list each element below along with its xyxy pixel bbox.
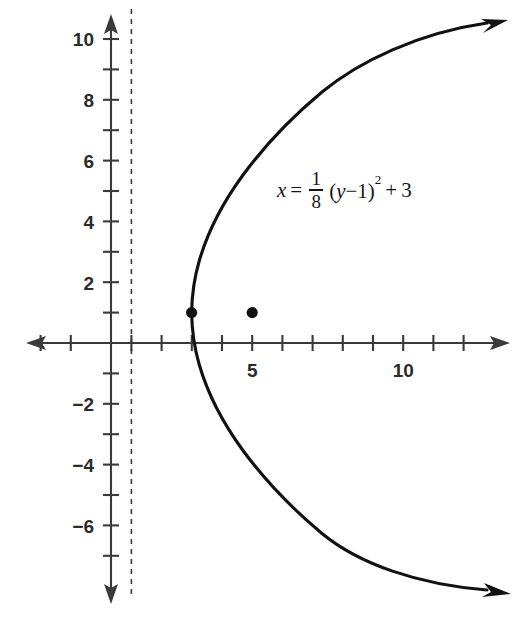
y-tick-label-6: 6 [83, 151, 94, 172]
focus-point [247, 307, 258, 318]
y-tick-label-8: 8 [83, 90, 94, 111]
vertex-point [186, 307, 197, 318]
y-tick-label-minus-2: −2 [72, 394, 94, 415]
equation-label: x = 1 8 (y−1)2 + 3 [277, 170, 412, 212]
y-tick-label-minus-4: −4 [72, 455, 94, 476]
equation-constant: 3 [401, 180, 412, 201]
x-axis-group: 5 10 [26, 335, 510, 381]
equation-group: (y−1)2 [329, 179, 381, 202]
y-tick-label-2: 2 [83, 273, 94, 294]
equation-equals: = [290, 180, 302, 201]
fraction-denominator: 8 [309, 191, 323, 211]
x-tick-label-5: 5 [247, 360, 258, 381]
parabola-lower-branch [192, 313, 487, 590]
parabola-upper-branch [192, 23, 487, 313]
y-tick-label-4: 4 [83, 212, 94, 233]
parabola-upper-arrow-icon [481, 19, 508, 33]
graph-figure: 5 10 [0, 0, 529, 621]
equation-plus: + [385, 180, 397, 201]
group-exponent: 2 [375, 172, 382, 187]
y-tick-label-minus-6: −6 [72, 516, 94, 537]
equation-fraction: 1 8 [309, 169, 323, 211]
equation-lhs: x [277, 180, 286, 201]
x-tick-label-10: 10 [393, 360, 414, 381]
group-variable: y [336, 179, 345, 203]
group-close-paren: ) [368, 179, 375, 203]
y-tick-label-10: 10 [73, 29, 94, 50]
plot-canvas: 5 10 [0, 0, 529, 621]
group-constant: 1 [357, 179, 368, 203]
y-axis-group: 10 8 6 4 2 −2 −4 −6 [72, 14, 119, 604]
fraction-numerator: 1 [309, 169, 323, 189]
group-minus-sign: − [346, 179, 358, 203]
parabola-curve-group [192, 19, 511, 597]
